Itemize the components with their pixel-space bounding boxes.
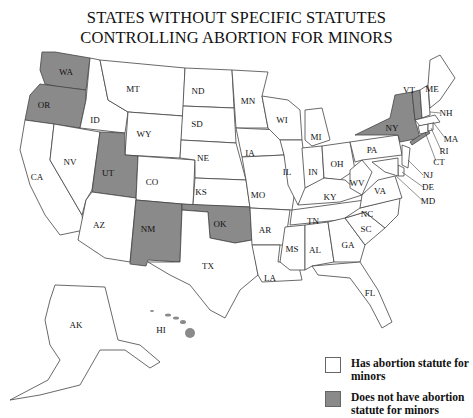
label-AK: AK bbox=[70, 320, 83, 330]
label-OK: OK bbox=[214, 219, 227, 229]
label-IA: IA bbox=[245, 148, 255, 158]
legend-no-statute-label: Does not have abortion statute for minor… bbox=[351, 391, 473, 417]
label-WV: WV bbox=[350, 178, 365, 188]
legend-swatch-gray bbox=[325, 391, 341, 407]
state-AZ bbox=[78, 192, 136, 262]
state-AK bbox=[10, 285, 160, 400]
label-MS: MS bbox=[285, 244, 298, 254]
label-WI: WI bbox=[276, 115, 288, 125]
label-MO: MO bbox=[251, 190, 266, 200]
state-RI bbox=[428, 123, 433, 131]
label-UT: UT bbox=[102, 168, 114, 178]
state-FL bbox=[312, 262, 392, 328]
label-NH: NH bbox=[440, 108, 453, 118]
label-OR: OR bbox=[38, 100, 51, 110]
legend-has-statute: Has abortion statute for minors bbox=[325, 357, 473, 383]
state-ME bbox=[428, 55, 455, 108]
label-MT: MT bbox=[126, 84, 140, 94]
label-DE: DE bbox=[422, 182, 434, 192]
label-FL: FL bbox=[365, 288, 376, 298]
state-NJ bbox=[402, 145, 410, 168]
state-NM bbox=[130, 200, 182, 266]
label-MN: MN bbox=[241, 96, 256, 106]
label-IL: IL bbox=[283, 167, 292, 177]
label-NJ: NJ bbox=[423, 170, 433, 180]
label-TX: TX bbox=[202, 261, 214, 271]
label-OH: OH bbox=[331, 159, 344, 169]
legend-has-statute-label: Has abortion statute for minors bbox=[351, 357, 473, 383]
label-NY: NY bbox=[386, 123, 399, 133]
label-PA: PA bbox=[367, 145, 378, 155]
label-IN: IN bbox=[308, 167, 318, 177]
label-MI: MI bbox=[311, 132, 322, 142]
label-VT: VT bbox=[403, 85, 415, 95]
legend-no-statute: Does not have abortion statute for minor… bbox=[325, 391, 473, 417]
state-DE bbox=[398, 165, 404, 176]
label-NV: NV bbox=[64, 157, 77, 167]
label-HI: HI bbox=[156, 325, 166, 335]
label-NC: NC bbox=[361, 209, 374, 219]
label-CA: CA bbox=[31, 172, 44, 182]
label-VA: VA bbox=[374, 186, 386, 196]
label-LA: LA bbox=[264, 273, 276, 283]
label-AR: AR bbox=[259, 225, 272, 235]
label-SC: SC bbox=[360, 224, 371, 234]
label-NE: NE bbox=[197, 153, 209, 163]
label-KS: KS bbox=[195, 187, 207, 197]
label-AZ: AZ bbox=[93, 220, 105, 230]
map-legend: Has abortion statute for minors Does not… bbox=[325, 357, 473, 418]
state-MD bbox=[372, 158, 398, 176]
label-KY: KY bbox=[324, 192, 337, 202]
label-ME: ME bbox=[425, 84, 439, 94]
label-WY: WY bbox=[137, 129, 152, 139]
label-CO: CO bbox=[146, 177, 159, 187]
state-CT bbox=[418, 124, 428, 134]
label-NM: NM bbox=[141, 224, 156, 234]
label-GA: GA bbox=[342, 240, 355, 250]
label-AL: AL bbox=[309, 245, 321, 255]
label-RI: RI bbox=[440, 146, 449, 156]
label-ND: ND bbox=[192, 86, 205, 96]
state-WY bbox=[125, 112, 183, 158]
label-SD: SD bbox=[191, 119, 203, 129]
legend-swatch-white bbox=[325, 357, 341, 373]
label-TN: TN bbox=[307, 216, 319, 226]
label-MA: MA bbox=[444, 134, 459, 144]
state-NY bbox=[355, 92, 420, 142]
state-SD bbox=[181, 106, 236, 143]
label-WA: WA bbox=[59, 67, 73, 77]
label-ID: ID bbox=[90, 115, 100, 125]
